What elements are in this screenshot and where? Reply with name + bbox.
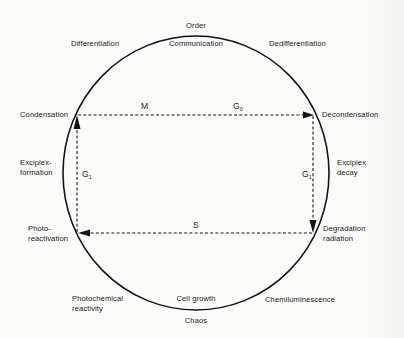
label-photo-reactivation-line1: Photo- — [28, 224, 68, 234]
phase-g0: G0 — [233, 101, 243, 111]
label-degradation-radiation: Degradation radiation — [323, 224, 365, 243]
label-differentiation: Differentiation — [71, 39, 119, 49]
label-decondensation: Decondensation — [322, 110, 378, 120]
phase-g1-right-sub: 1 — [309, 174, 312, 180]
label-photochemical-line2: reactivity — [72, 304, 123, 314]
label-condensation: Condensation — [20, 110, 68, 120]
label-communication: Communication — [169, 39, 223, 49]
phase-g0-sub: 0 — [240, 106, 243, 112]
label-photochemical-line1: Photochemical — [72, 294, 123, 304]
phase-g0-base: G — [233, 101, 240, 111]
arrow-right-icon — [303, 112, 314, 119]
phase-g1-left: G1 — [82, 169, 92, 179]
label-exciplex-formation: Exciplex- formation — [20, 158, 53, 177]
label-order: Order — [186, 21, 206, 31]
cell-cycle-diagram: Order Chaos Communication Cell growth Di… — [0, 0, 404, 338]
label-exciplex-decay-line2: decay — [337, 168, 366, 178]
label-photo-reactivation: Photo- reactivation — [28, 224, 68, 243]
label-exciplex-decay: Excipiex decay — [337, 158, 366, 177]
phase-m: M — [141, 101, 148, 111]
phase-s: S — [193, 220, 199, 230]
label-cell-growth: Cell growth — [176, 294, 215, 304]
label-photochemical-reactivity: Photochemical reactivity — [72, 294, 123, 313]
label-exciplex-decay-line1: Excipiex — [337, 158, 366, 168]
phase-g1-left-base: G — [82, 169, 89, 179]
arrow-down-icon — [310, 220, 317, 233]
label-chaos: Chaos — [185, 316, 207, 326]
phase-g1-left-sub: 1 — [89, 174, 92, 180]
label-exciplex-formation-line1: Exciplex- — [20, 158, 53, 168]
label-photo-reactivation-line2: reactivation — [28, 234, 68, 244]
label-degradation-line1: Degradation — [323, 224, 365, 234]
label-dedifferentiation: Dedifferentiation — [269, 39, 326, 49]
outer-circle — [63, 36, 329, 310]
phase-g1-right: G1 — [302, 169, 312, 179]
phase-g1-right-base: G — [302, 169, 309, 179]
label-chemiluminescence: Chemiluminescence — [265, 295, 335, 305]
label-exciplex-formation-line2: formation — [20, 168, 53, 178]
label-degradation-line2: radiation — [323, 234, 365, 244]
arrow-left-icon — [78, 230, 90, 237]
